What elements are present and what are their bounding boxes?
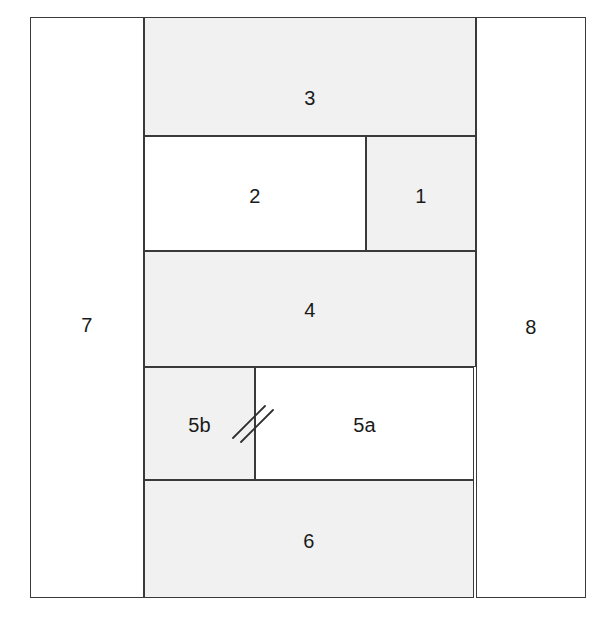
unit-label-5b: 5b (145, 415, 254, 435)
unit-block-5a[interactable]: 5a (255, 367, 474, 480)
unit-block-1[interactable]: 1 (366, 136, 476, 251)
unit-block-6[interactable]: 6 (144, 480, 474, 598)
stratigraphic-block-diagram: 7 3 2 1 4 5b 5a 6 8 (0, 0, 615, 631)
unit-label-5a: 5a (256, 415, 473, 435)
unit-label-4: 4 (145, 300, 475, 320)
unit-label-3: 3 (145, 88, 475, 108)
unit-label-1: 1 (367, 186, 475, 206)
unit-block-5b[interactable]: 5b (144, 367, 255, 480)
unit-block-7[interactable]: 7 (30, 17, 144, 598)
unit-label-6: 6 (145, 531, 473, 551)
unit-block-4[interactable]: 4 (144, 251, 476, 367)
unit-label-7: 7 (31, 315, 143, 335)
unit-label-8: 8 (477, 317, 585, 337)
unit-label-2: 2 (145, 186, 365, 206)
unit-block-8[interactable]: 8 (476, 17, 586, 598)
unit-block-2[interactable]: 2 (144, 136, 366, 251)
unit-block-3[interactable]: 3 (144, 17, 476, 136)
